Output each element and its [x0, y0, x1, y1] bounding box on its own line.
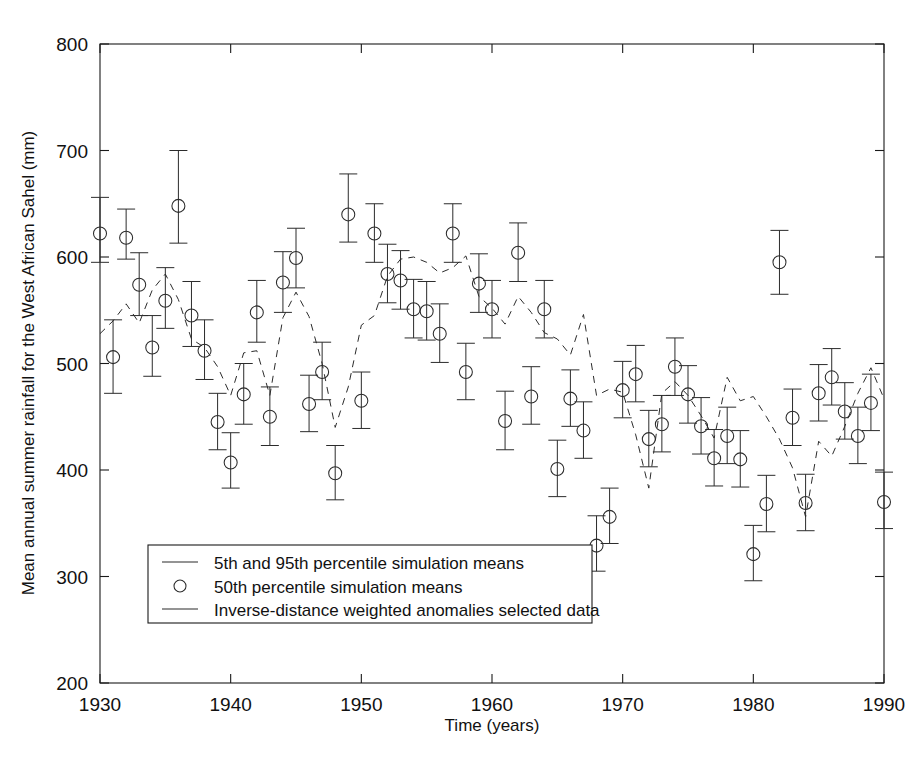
x-tick-label: 1970 [602, 694, 644, 715]
y-tick-label: 500 [56, 354, 88, 375]
figure-background [0, 0, 916, 763]
y-tick-label: 800 [56, 34, 88, 55]
y-axis-title: Mean annual summer rainfall for the West… [19, 131, 38, 596]
chart-legend: 5th and 95th percentile simulation means… [148, 545, 600, 623]
x-tick-label: 1990 [863, 694, 905, 715]
x-tick-label: 1980 [732, 694, 774, 715]
y-tick-label: 700 [56, 141, 88, 162]
legend-label-median: 50th percentile simulation means [214, 578, 463, 597]
y-tick-label: 600 [56, 247, 88, 268]
x-tick-label: 1940 [210, 694, 252, 715]
y-tick-label: 400 [56, 460, 88, 481]
y-tick-label: 200 [56, 673, 88, 694]
x-tick-label: 1930 [79, 694, 121, 715]
rainfall-timeseries-chart: 1930194019501960197019801990 20030040050… [0, 0, 916, 763]
legend-label-anomalies: Inverse-distance weighted anomalies sele… [214, 601, 600, 620]
legend-label-percentiles: 5th and 95th percentile simulation means [214, 554, 524, 573]
chart-figure: 1930194019501960197019801990 20030040050… [0, 0, 916, 763]
x-axis-title: Time (years) [445, 716, 540, 735]
x-tick-label: 1960 [471, 694, 513, 715]
y-tick-label: 300 [56, 567, 88, 588]
x-tick-label: 1950 [340, 694, 382, 715]
